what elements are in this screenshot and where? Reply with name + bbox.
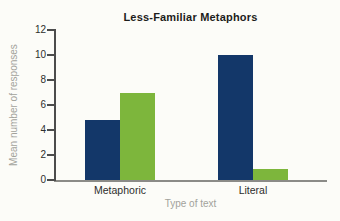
x-category-labels: MetaphoricLiteral [54, 184, 327, 197]
y-tick-label: 12 [22, 25, 46, 35]
bar-literal-navy [218, 55, 253, 180]
y-tick-label: 0 [22, 175, 46, 185]
x-category-label: Metaphoric [94, 184, 146, 196]
x-axis-label: Type of text [54, 198, 327, 209]
y-tick-mark [47, 29, 56, 31]
y-tick-mark [47, 104, 56, 106]
y-tick-label: 8 [22, 75, 46, 85]
y-tick-label: 2 [22, 150, 46, 160]
bar-literal-green [253, 169, 288, 180]
bar-chart: Less-Familiar Metaphors Mean number of r… [0, 0, 340, 221]
y-tick-mark [47, 54, 56, 56]
plot-area: 024681012 [54, 30, 327, 180]
bar-metaphoric-navy [85, 120, 120, 180]
chart-title: Less-Familiar Metaphors [54, 11, 327, 23]
y-tick-mark [47, 79, 56, 81]
y-tick-mark [47, 154, 56, 156]
y-tick-label: 10 [22, 50, 46, 60]
y-tick-mark [47, 129, 56, 131]
y-axis-label: Mean number of responses [8, 30, 20, 180]
y-tick-label: 4 [22, 125, 46, 135]
y-tick-label: 6 [22, 100, 46, 110]
bar-metaphoric-green [120, 93, 155, 181]
y-tick-mark [47, 179, 56, 181]
x-axis-line [54, 180, 327, 182]
x-category-label: Literal [239, 184, 268, 196]
